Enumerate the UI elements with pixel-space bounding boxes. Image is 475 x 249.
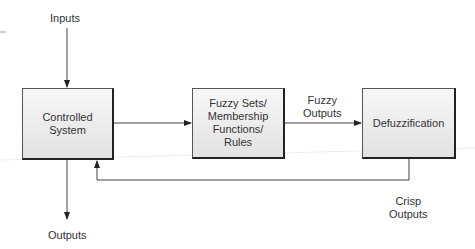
defuzzification-block: Defuzzification [362,88,456,159]
fuzzy-sets-block: Fuzzy Sets/ Membership Functions/ Rules [192,88,285,159]
outputs-label: Outputs [48,229,87,242]
crisp-outputs-label: Crisp Outputs [389,195,428,221]
crisp-feedback-line [97,158,409,180]
fuzzy-outputs-label: Fuzzy Outputs [303,94,342,120]
controlled-system-block: Controlled System [22,88,114,160]
inputs-label: Inputs [50,12,80,25]
